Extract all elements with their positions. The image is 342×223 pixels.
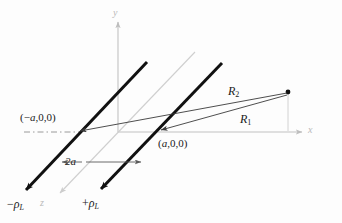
- negative-charge-sub: L: [20, 203, 24, 212]
- negative-charge-sign: −: [7, 197, 14, 211]
- positive-charge-sub: L: [95, 202, 99, 211]
- separation-label: 2a: [65, 156, 76, 167]
- point-negative-a-suffix: ,0,0): [35, 111, 55, 123]
- vector-r2-label: R2: [228, 85, 239, 99]
- negative-line-charge: [26, 62, 147, 190]
- z-axis-label: z: [40, 198, 44, 208]
- x-axis-label: x: [308, 125, 312, 135]
- y-axis-label: y: [113, 8, 117, 18]
- positive-charge-label: +ρL: [82, 197, 99, 211]
- point-positive-a-label: (a,0,0): [158, 138, 187, 149]
- vector-r2-sub: 2: [235, 90, 239, 99]
- line-charge-diagram: y x z (−a,0,0) (a,0,0) R2 R1 −ρL +ρL 2a: [0, 0, 342, 223]
- positive-charge-sign: +: [82, 196, 89, 210]
- vector-r1-sub: 1: [247, 118, 251, 127]
- point-negative-a-label: (−a,0,0): [20, 112, 56, 123]
- negative-charge-label: −ρL: [7, 198, 24, 212]
- positive-line-charge: [101, 63, 222, 189]
- point-negative-a-prefix: (−: [20, 111, 30, 123]
- vector-r1-label: R1: [240, 113, 251, 127]
- field-point-dot: [286, 90, 291, 95]
- point-positive-a-suffix: ,0,0): [167, 137, 187, 149]
